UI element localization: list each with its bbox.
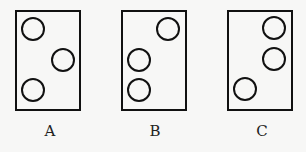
circle [157, 18, 179, 40]
panel-box-a [16, 11, 80, 110]
circle [263, 17, 285, 39]
label-b: B [149, 122, 160, 140]
circle [128, 49, 150, 71]
circle [52, 49, 74, 71]
panel-box-c [228, 11, 292, 110]
circle [234, 78, 256, 100]
circle [263, 48, 285, 70]
label-c: C [256, 122, 267, 140]
circle [22, 79, 44, 101]
label-a: A [45, 122, 56, 140]
circle [22, 18, 44, 40]
circle [128, 79, 150, 101]
panel-box-b [122, 11, 186, 110]
